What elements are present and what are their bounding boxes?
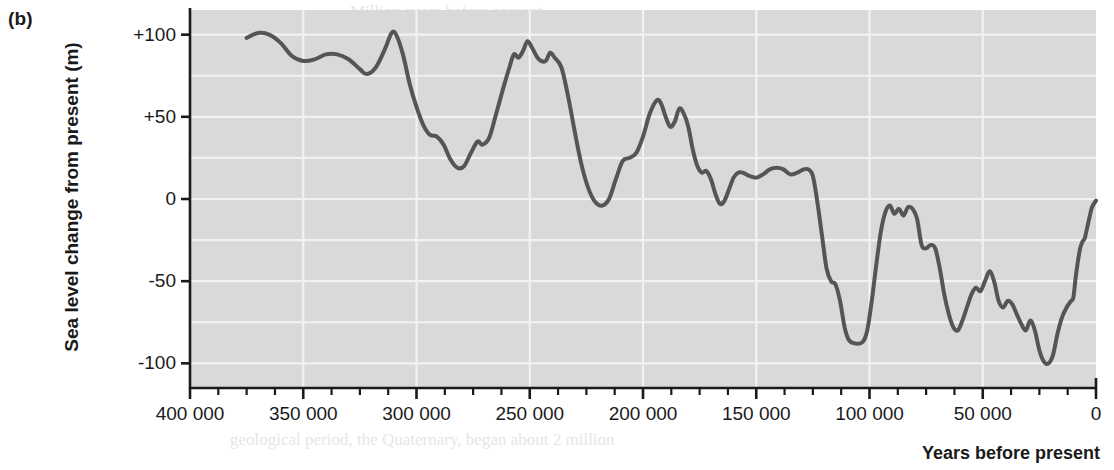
figure-sea-level-change: (b) Sea level change from present (m) Ye… <box>0 0 1114 470</box>
plot-area <box>0 0 1114 470</box>
